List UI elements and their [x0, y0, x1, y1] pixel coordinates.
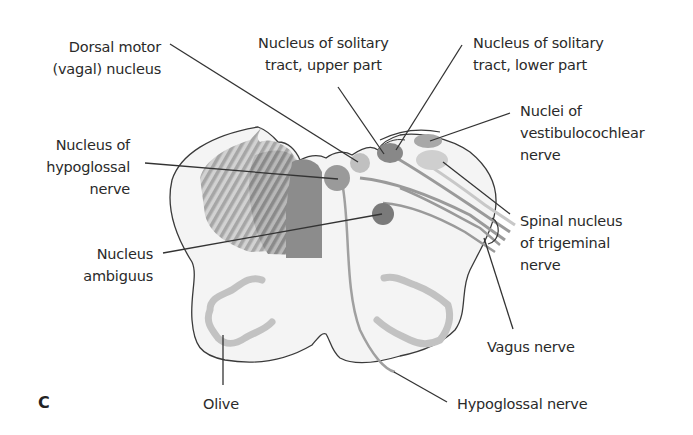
label-line: ambiguus — [83, 265, 153, 287]
label-line: Nucleus of — [46, 134, 130, 156]
label-vestibulocochlear: Nuclei of vestibulocochlear nerve — [520, 100, 644, 166]
label-line: nerve — [520, 254, 622, 276]
solid-dark-region — [286, 159, 322, 258]
vestibulocochlear-nucleus-upper — [414, 134, 442, 148]
label-line: Nuclei of — [520, 100, 644, 122]
label-spinal-trigeminal: Spinal nucleus of trigeminal nerve — [520, 210, 622, 276]
leader-vagus — [484, 238, 513, 329]
label-line: of trigeminal — [520, 232, 622, 254]
label-line: vestibulocochlear — [520, 122, 644, 144]
label-line: Hypoglossal nerve — [457, 393, 587, 415]
leader-hypoglossal-nerve — [394, 372, 447, 402]
label-hypoglossal-nerve: Hypoglossal nerve — [457, 393, 587, 415]
vestibulocochlear-nucleus-lower — [416, 150, 448, 170]
label-hypoglossal-nucleus: Nucleus of hypoglossal nerve — [46, 134, 130, 200]
label-olive: Olive — [203, 393, 239, 415]
label-dorsal-motor-nucleus: Dorsal motor (vagal) nucleus — [52, 36, 161, 80]
label-line: hypoglossal — [46, 156, 130, 178]
label-line: Spinal nucleus — [520, 210, 622, 232]
label-solitary-upper: Nucleus of solitary tract, upper part — [258, 32, 389, 76]
label-vagus-nerve: Vagus nerve — [487, 336, 575, 358]
label-line: Olive — [203, 393, 239, 415]
leader-vestibulocochlear — [430, 113, 510, 141]
dorsal-motor-nucleus — [350, 153, 370, 173]
label-line: nerve — [46, 178, 130, 200]
label-line: (vagal) nucleus — [52, 58, 161, 80]
label-line: tract, upper part — [258, 54, 389, 76]
label-line: Nucleus of solitary — [473, 32, 604, 54]
label-line: Nucleus — [83, 243, 153, 265]
label-line: Vagus nerve — [487, 336, 575, 358]
label-line: Nucleus of solitary — [258, 32, 389, 54]
nucleus-ambiguus — [372, 203, 394, 225]
label-line: Dorsal motor — [52, 36, 161, 58]
label-line: tract, lower part — [473, 54, 604, 76]
label-nucleus-ambiguus: Nucleus ambiguus — [83, 243, 153, 287]
label-solitary-lower: Nucleus of solitary tract, lower part — [473, 32, 604, 76]
leader-solitary-upper — [338, 87, 384, 154]
label-line: nerve — [520, 144, 644, 166]
panel-letter: C — [38, 393, 50, 412]
